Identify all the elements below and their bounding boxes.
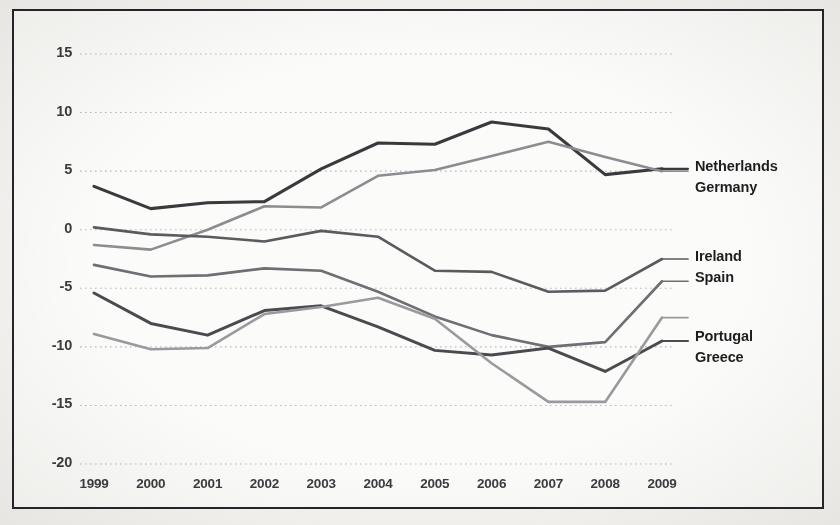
chart-page: 151050-5-10-15-20 1999200020012002200320… — [0, 0, 840, 525]
series-line-spain — [94, 265, 662, 347]
x-tick-label: 2001 — [180, 476, 236, 491]
x-tick-label: 2008 — [577, 476, 633, 491]
series-line-germany — [94, 142, 662, 250]
x-tick-label: 1999 — [66, 476, 122, 491]
y-tick-label: 0 — [26, 220, 72, 236]
series-label-germany: Germany — [695, 179, 757, 195]
x-tick-label: 2000 — [123, 476, 179, 491]
series-line-ireland — [94, 227, 662, 291]
x-tick-label: 2006 — [464, 476, 520, 491]
series-lines — [94, 122, 688, 402]
series-line-netherlands — [94, 122, 662, 209]
series-line-portugal — [94, 293, 662, 371]
y-tick-label: 5 — [26, 161, 72, 177]
y-tick-label: -10 — [26, 337, 72, 353]
x-tick-label: 2005 — [407, 476, 463, 491]
x-tick-label: 2002 — [236, 476, 292, 491]
x-tick-label: 2004 — [350, 476, 406, 491]
y-tick-label: -5 — [26, 278, 72, 294]
series-label-greece: Greece — [695, 349, 744, 365]
x-tick-label: 2003 — [293, 476, 349, 491]
y-tick-label: -20 — [26, 454, 72, 470]
x-tick-label: 2007 — [520, 476, 576, 491]
y-tick-label: 15 — [26, 44, 72, 60]
series-label-spain: Spain — [695, 269, 734, 285]
series-label-ireland: Ireland — [695, 248, 742, 264]
series-label-portugal: Portugal — [695, 328, 753, 344]
y-tick-label: 10 — [26, 103, 72, 119]
chart-frame: 151050-5-10-15-20 1999200020012002200320… — [12, 9, 824, 509]
series-label-netherlands: Netherlands — [695, 158, 778, 174]
x-tick-label: 2009 — [634, 476, 690, 491]
y-tick-label: -15 — [26, 395, 72, 411]
series-line-greece — [94, 298, 662, 402]
